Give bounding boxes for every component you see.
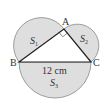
point-label-c: C bbox=[93, 57, 100, 68]
point-label-a: A bbox=[62, 16, 70, 27]
measurement-bc: 12 cm bbox=[42, 65, 67, 76]
point-label-b: B bbox=[10, 57, 17, 68]
geometry-diagram: A B C S1 S2 S3 12 cm bbox=[0, 0, 111, 112]
diagram-canvas: A B C S1 S2 S3 12 cm bbox=[0, 0, 111, 112]
